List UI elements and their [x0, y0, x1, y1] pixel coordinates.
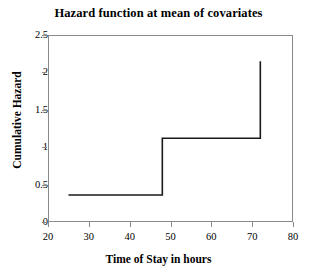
x-axis: 20304050607080 — [48, 222, 293, 252]
x-tick-mark — [89, 222, 90, 227]
y-tick-mark — [42, 185, 47, 186]
y-tick-mark — [42, 35, 47, 36]
x-tick-mark — [171, 222, 172, 227]
y-tick-mark — [42, 72, 47, 73]
y-tick-mark — [42, 222, 47, 223]
x-tick-mark — [211, 222, 212, 227]
chart-figure: Hazard function at mean of covariates 00… — [0, 0, 317, 274]
x-tick-mark — [130, 222, 131, 227]
x-tick-mark — [293, 222, 294, 227]
x-tick-label: 20 — [28, 231, 68, 242]
x-tick-label: 70 — [232, 231, 272, 242]
x-tick-label: 60 — [191, 231, 231, 242]
x-tick-label: 50 — [151, 231, 191, 242]
x-tick-mark — [48, 222, 49, 227]
y-axis-label: Cumulative Hazard — [11, 40, 23, 200]
x-tick-label: 40 — [110, 231, 150, 242]
x-tick-mark — [252, 222, 253, 227]
x-tick-label: 30 — [69, 231, 109, 242]
y-tick-mark — [42, 147, 47, 148]
plot-area — [48, 35, 293, 222]
x-axis-label: Time of Stay in hours — [0, 253, 317, 265]
x-tick-label: 80 — [273, 231, 313, 242]
chart-title: Hazard function at mean of covariates — [0, 6, 317, 21]
y-axis: 00.511.522.5 — [0, 35, 48, 222]
step-line-series — [68, 61, 260, 195]
y-tick-mark — [42, 110, 47, 111]
